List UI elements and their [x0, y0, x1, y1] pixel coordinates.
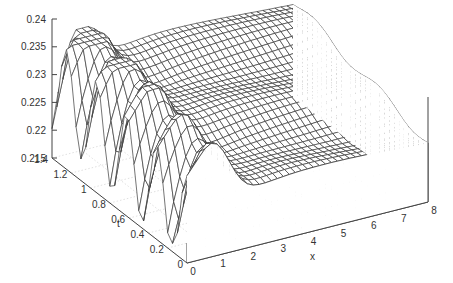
- svg-text:7: 7: [401, 213, 407, 224]
- surface-plot: 0.2150.220.2250.230.2350.2400.20.40.60.8…: [0, 0, 453, 283]
- svg-text:1: 1: [220, 258, 226, 269]
- svg-text:4: 4: [311, 236, 317, 247]
- svg-text:0.225: 0.225: [21, 97, 46, 108]
- svg-text:0.4: 0.4: [131, 229, 145, 240]
- svg-text:6: 6: [371, 220, 377, 231]
- svg-text:3: 3: [281, 243, 287, 254]
- svg-text:0.23: 0.23: [27, 69, 47, 80]
- svg-text:1.2: 1.2: [53, 169, 67, 180]
- svg-text:8: 8: [431, 205, 437, 216]
- svg-text:0: 0: [190, 266, 196, 277]
- svg-text:0.235: 0.235: [21, 41, 46, 52]
- t-axis-label: t: [117, 218, 120, 229]
- svg-text:5: 5: [341, 228, 347, 239]
- svg-text:0.24: 0.24: [27, 14, 47, 25]
- svg-text:0.22: 0.22: [27, 125, 47, 136]
- svg-text:1.4: 1.4: [34, 154, 48, 165]
- x-axis-label: x: [310, 251, 315, 262]
- svg-text:0.8: 0.8: [92, 199, 106, 210]
- svg-text:0: 0: [177, 259, 183, 270]
- svg-text:1: 1: [81, 184, 87, 195]
- svg-text:2: 2: [250, 251, 256, 262]
- svg-text:0.2: 0.2: [150, 244, 164, 255]
